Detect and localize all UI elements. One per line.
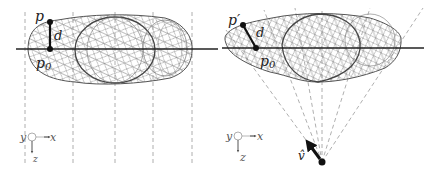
view-vector-arrow bbox=[309, 144, 320, 159]
point-p-prime bbox=[240, 22, 246, 28]
label-d: d bbox=[256, 25, 264, 40]
figure-canvas: p d p0 y x z bbox=[0, 0, 439, 174]
axis-label-x: x bbox=[257, 130, 264, 143]
label-v-hat: v̂ bbox=[298, 149, 305, 163]
y-axis-icon bbox=[28, 133, 36, 141]
coordinate-frame: y x z bbox=[225, 130, 264, 164]
label-p-prime: p′ bbox=[228, 12, 241, 28]
label-d: d bbox=[54, 28, 62, 43]
point-p bbox=[47, 19, 53, 25]
point-p0 bbox=[47, 46, 53, 52]
label-p: p bbox=[35, 8, 44, 24]
axis-label-z: z bbox=[32, 154, 38, 164]
axis-label-y: y bbox=[19, 131, 27, 144]
axis-label-y: y bbox=[225, 130, 233, 143]
camera-point bbox=[319, 159, 326, 166]
axis-label-z: z bbox=[239, 151, 246, 164]
axis-label-x: x bbox=[50, 131, 57, 144]
left-panel: p d p0 y x z bbox=[16, 8, 218, 165]
y-axis-icon bbox=[234, 132, 242, 140]
right-panel: p′ d p0 v̂ y x z bbox=[222, 8, 424, 166]
point-p0 bbox=[253, 45, 259, 51]
